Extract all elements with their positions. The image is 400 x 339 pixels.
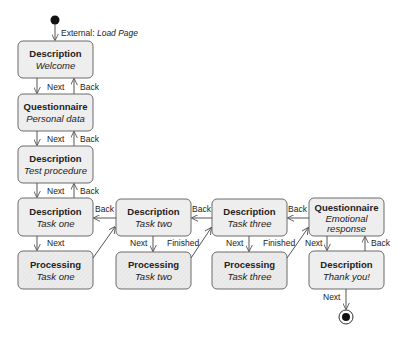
label-back: Back [80, 82, 100, 92]
svg-text:Task two: Task two [135, 271, 172, 282]
label-back: Back [192, 204, 212, 214]
svg-text:Processing: Processing [224, 259, 275, 270]
label-next: Next [47, 134, 65, 144]
label-back: Back [80, 134, 100, 144]
svg-text:Task two: Task two [135, 218, 172, 229]
svg-text:Questionnaire: Questionnaire [315, 202, 379, 213]
state-desc-thanks[interactable]: Description Thank you! [309, 251, 384, 289]
svg-text:Test procedure: Test procedure [24, 165, 87, 176]
state-desc-welcome[interactable]: Description Welcome [18, 41, 93, 78]
label-back: Back [288, 204, 308, 214]
label-next: Next [130, 238, 148, 248]
svg-text:Task one: Task one [36, 271, 74, 282]
label-next: Next [226, 238, 244, 248]
label-next: Next [305, 238, 323, 248]
end-node [342, 313, 350, 321]
state-desc-test[interactable]: Description Test procedure [18, 146, 93, 183]
svg-text:Processing: Processing [30, 259, 81, 270]
state-desc-task3[interactable]: Description Task three [212, 199, 287, 236]
state-quest-personal[interactable]: Questionnaire Personal data [18, 94, 93, 131]
svg-text:Description: Description [29, 48, 81, 59]
svg-text:Questionnaire: Questionnaire [24, 101, 88, 112]
svg-text:Description: Description [223, 206, 275, 217]
state-quest-emotional[interactable]: Questionnaire Emotional response [309, 198, 384, 236]
svg-text:Task three: Task three [227, 218, 271, 229]
start-node [51, 16, 60, 25]
svg-text:Description: Description [29, 153, 81, 164]
svg-text:Welcome: Welcome [36, 60, 75, 71]
svg-text:response: response [327, 223, 366, 234]
svg-text:Description: Description [127, 206, 179, 217]
svg-text:Task three: Task three [227, 271, 271, 282]
svg-text:Personal data: Personal data [26, 113, 85, 124]
svg-text:Thank you!: Thank you! [323, 271, 370, 282]
state-diagram: External: Load Page Description Welcome … [0, 0, 400, 339]
svg-text:Description: Description [320, 259, 372, 270]
label-back: Back [371, 238, 391, 248]
svg-text:Description: Description [29, 206, 81, 217]
label-next: Next [47, 238, 65, 248]
label-back: Back [80, 186, 100, 196]
state-desc-task2[interactable]: Description Task two [116, 199, 191, 236]
svg-text:Task one: Task one [36, 218, 74, 229]
label-finished: Finished [263, 238, 295, 248]
state-proc-task2[interactable]: Processing Task two [116, 252, 191, 289]
edge-finished [93, 227, 115, 258]
label-next: Next [47, 82, 65, 92]
state-proc-task1[interactable]: Processing Task one [18, 251, 93, 289]
label-finished: Finished [167, 238, 199, 248]
state-desc-task1[interactable]: Description Task one [18, 198, 93, 236]
start-label: External: Load Page [61, 28, 138, 38]
svg-text:Processing: Processing [128, 259, 179, 270]
label-next: Next [47, 186, 65, 196]
label-next: Next [323, 292, 341, 302]
state-proc-task3[interactable]: Processing Task three [212, 252, 287, 289]
label-back: Back [95, 204, 115, 214]
